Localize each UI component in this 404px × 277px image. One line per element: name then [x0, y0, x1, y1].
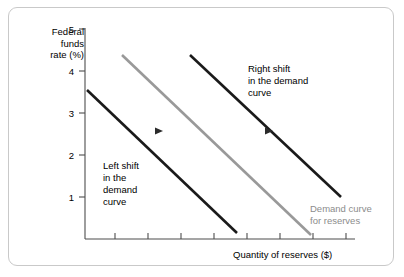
left-shift-label: Left shift in the demand curve — [103, 160, 139, 208]
y-tick-label-4: 4 — [60, 66, 74, 77]
x-axis-title: Quantity of reserves ($) — [233, 249, 332, 261]
y-tick-label-5: 5 — [60, 24, 74, 35]
y-tick-label-2: 2 — [60, 150, 74, 161]
y-tick-label-1: 1 — [60, 192, 74, 203]
demand-curve-label: Demand curve for reserves — [310, 203, 372, 227]
right-shift-label: Right shift in the demand curve — [248, 63, 308, 99]
y-tick-label-3: 3 — [60, 108, 74, 119]
y-axis-title: Federal funds rate (%) — [30, 26, 84, 61]
